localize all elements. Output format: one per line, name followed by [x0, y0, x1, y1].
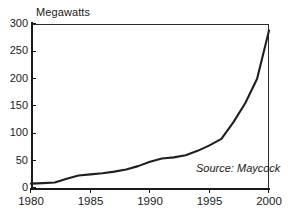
y-tick-300 — [31, 23, 36, 24]
y-tick-label-250: 250 — [2, 45, 28, 56]
x-tick-label-1980: 1980 — [18, 195, 44, 208]
y-tick-100 — [31, 133, 36, 134]
y-tick-label-100: 100 — [2, 127, 28, 138]
x-tick-1990 — [149, 188, 150, 193]
y-tick-250 — [31, 51, 36, 52]
y-tick-label-300: 300 — [2, 18, 28, 29]
chart-container: Megawatts 300250200150100500 19801985199… — [0, 0, 301, 221]
y-tick-200 — [31, 78, 36, 79]
x-tick-label-1985: 1985 — [78, 195, 104, 208]
y-tick-150 — [31, 105, 36, 106]
y-tick-label-200: 200 — [2, 73, 28, 84]
y-tick-label-50: 50 — [2, 155, 28, 166]
y-tick-50 — [31, 160, 36, 161]
x-tick-label-1990: 1990 — [137, 195, 163, 208]
y-tick-0 — [31, 187, 36, 188]
x-tick-1985 — [90, 188, 91, 193]
x-tick-1980 — [30, 188, 31, 193]
x-tick-label-2000: 2000 — [256, 195, 282, 208]
x-tick-2000 — [268, 188, 269, 193]
x-tick-label-1995: 1995 — [197, 195, 223, 208]
x-tick-1995 — [209, 188, 210, 193]
plot-frame-top — [31, 24, 269, 25]
y-tick-label-0: 0 — [2, 182, 28, 193]
y-axis-title: Megawatts — [36, 6, 90, 19]
y-tick-label-150: 150 — [2, 100, 28, 111]
source-annotation: Source: Maycock — [196, 162, 280, 175]
